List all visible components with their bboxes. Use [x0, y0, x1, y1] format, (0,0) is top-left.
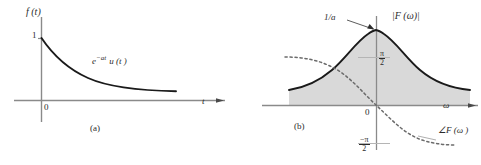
panel-b-phase-label: ∠F (ω )	[438, 126, 468, 135]
panel-a-caption: (a)	[90, 124, 100, 133]
panel-b-peak-label: 1/a	[324, 13, 336, 22]
panel-b-origin-label: 0	[365, 108, 370, 117]
panel-a-curve-label-tail: u (t )	[106, 56, 127, 66]
panel-a-curve-label: e−atu (t )	[92, 55, 127, 66]
panel-b-pos-tick-label: π 2	[379, 49, 385, 67]
panel-b-caption: (b)	[294, 122, 305, 131]
panel-a-x-arrow-head	[216, 98, 224, 103]
panel-a-origin-label: 0	[44, 103, 49, 112]
panel-b-neg-tick-label: −π 2	[359, 135, 370, 153]
panel-b-x-arrow-head	[468, 103, 476, 108]
panel-b-pos-tick-den: 2	[379, 59, 385, 67]
panel-b-magnitude-label: |F (ω)|	[392, 11, 420, 21]
panel-a-plot	[0, 0, 240, 165]
panel-b-frequency-domain: 1/a |F (ω)| π 2 −π 2 0 ω ∠F (ω ) (b)	[240, 0, 481, 165]
panel-a-y-tick-label: 1	[32, 31, 37, 40]
panel-b-magnitude-fill	[289, 30, 470, 105]
panel-a-curve-label-exponent: −at	[96, 54, 106, 62]
panel-a-x-axis-label: t	[202, 97, 205, 106]
figure-fourier-transform-pair: f (t) 1 0 t (a) e−atu (t )	[0, 0, 481, 165]
panel-a-time-domain: f (t) 1 0 t (a) e−atu (t )	[0, 0, 240, 165]
panel-b-x-axis-label: ω	[443, 101, 449, 110]
panel-a-y-axis-label: f (t)	[26, 7, 41, 17]
panel-b-phase-leader-line	[418, 136, 436, 140]
panel-b-neg-tick-den: 2	[359, 145, 370, 153]
panel-b-peak-arrow-head	[367, 24, 374, 30]
